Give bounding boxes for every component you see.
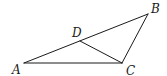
label-a: A (11, 63, 21, 76)
segment-dc (80, 41, 122, 63)
label-d: D (71, 26, 82, 40)
triangle-diagram: A B C D (0, 0, 167, 76)
label-c: C (126, 64, 135, 76)
label-b: B (150, 2, 160, 16)
segment-bc (122, 14, 148, 63)
segment-ab (24, 14, 148, 63)
